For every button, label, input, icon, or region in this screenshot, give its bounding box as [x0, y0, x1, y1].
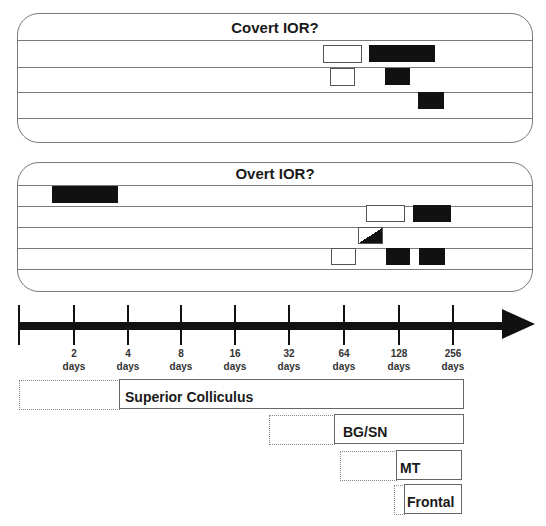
row-divider [18, 118, 532, 119]
overt-row4-open-box [331, 248, 356, 265]
superior-colliculus-range: Superior Colliculus [119, 379, 464, 409]
overt-row4-filled-box-2 [419, 248, 445, 265]
covert-row3-filled-box [418, 92, 444, 109]
tick-label-64-days: 64days [324, 347, 364, 373]
row-divider [18, 227, 532, 228]
mt-early-range [340, 451, 397, 481]
covert-row2-open-box [330, 68, 355, 86]
tick-256-days [452, 305, 454, 345]
row-divider [18, 67, 532, 68]
overt-row2-filled-box [413, 205, 451, 222]
bg-sn-range: BG/SN [334, 414, 464, 444]
row-divider [18, 206, 532, 207]
row-divider [18, 92, 532, 93]
tick-8-days [180, 305, 182, 345]
tick-2-days [73, 305, 75, 345]
row-divider [18, 269, 532, 270]
superior-colliculus-early-range [19, 380, 120, 410]
superior-colliculus-label: Superior Colliculus [125, 389, 253, 405]
bg-sn-label: BG/SN [343, 424, 387, 440]
frontal-range: Frontal [404, 484, 462, 514]
overt-ior-title: Overt IOR? [18, 165, 532, 182]
tick-32-days [288, 305, 290, 345]
covert-row2-filled-box [385, 68, 410, 85]
overt-row3-half-filled-box [358, 227, 383, 244]
tick-label-32-days: 32days [269, 347, 309, 373]
covert-ior-title: Covert IOR? [18, 19, 532, 36]
covert-row1-open-box [323, 45, 362, 63]
timeline-axis [19, 322, 509, 330]
overt-row4-filled-box-1 [386, 248, 410, 265]
arrowhead-icon [502, 309, 535, 339]
tick-label-2-days: 2days [54, 347, 94, 373]
covert-ior-panel: Covert IOR? [17, 13, 533, 143]
tick-label-128-days: 128days [379, 347, 419, 373]
overt-ior-panel: Overt IOR? [17, 162, 533, 292]
overt-row1-filled-box [52, 186, 118, 203]
tick-0 [18, 305, 20, 345]
covert-row1-filled-box [369, 45, 435, 62]
row-divider [18, 40, 532, 41]
tick-64-days [343, 305, 345, 345]
tick-128-days [398, 305, 400, 345]
tick-4-days [127, 305, 129, 345]
tick-label-4-days: 4days [108, 347, 148, 373]
bg-sn-early-range [269, 415, 335, 445]
tick-label-256-days: 256days [433, 347, 473, 373]
tick-label-16-days: 16days [215, 347, 255, 373]
tick-label-8-days: 8days [161, 347, 201, 373]
row-divider [18, 248, 532, 249]
mt-label: MT [400, 460, 420, 476]
tick-16-days [234, 305, 236, 345]
frontal-label: Frontal [407, 494, 454, 510]
mt-range: MT [396, 450, 462, 480]
overt-row2-open-box [366, 205, 405, 222]
